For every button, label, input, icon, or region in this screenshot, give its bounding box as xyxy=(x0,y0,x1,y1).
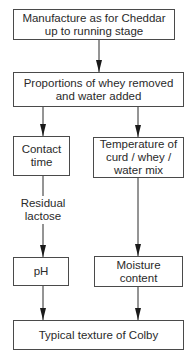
node-temperature-label: Temperature of curd / whey / water mix xyxy=(100,138,177,177)
node-proportions: Proportions of whey removed and water ad… xyxy=(13,72,184,107)
node-start-label: Manufacture as for Cheddar up to running… xyxy=(22,12,165,38)
node-temperature: Temperature of curd / whey / water mix xyxy=(93,137,184,178)
node-result: Typical texture of Colby xyxy=(13,320,184,350)
node-result-label: Typical texture of Colby xyxy=(39,329,159,342)
node-contact-time-label: Contact time xyxy=(22,143,62,169)
node-start: Manufacture as for Cheddar up to running… xyxy=(13,9,175,40)
node-ph-label: pH xyxy=(34,265,49,278)
connector-lines xyxy=(0,0,193,361)
arrowhead-icon xyxy=(40,308,46,320)
node-moisture: Moisture content xyxy=(94,256,183,287)
node-ph: pH xyxy=(13,257,69,286)
node-moisture-label: Moisture content xyxy=(116,259,160,285)
arrowhead-icon xyxy=(96,60,102,72)
node-contact-time: Contact time xyxy=(13,136,70,176)
node-proportions-label: Proportions of whey removed and water ad… xyxy=(24,77,174,103)
arrowhead-icon xyxy=(135,244,141,256)
arrowhead-icon xyxy=(135,125,141,137)
arrowhead-icon xyxy=(40,124,46,136)
edge-label-residual-lactose: Residual lactose xyxy=(13,197,73,223)
arrowhead-icon xyxy=(135,308,141,320)
arrowhead-icon xyxy=(40,245,46,257)
